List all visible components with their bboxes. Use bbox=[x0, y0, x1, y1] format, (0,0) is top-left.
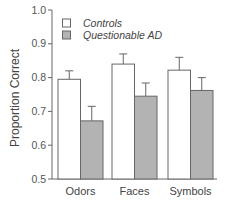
x-tick-label: Odors bbox=[66, 185, 96, 197]
legend: ControlsQuestionable AD bbox=[63, 17, 163, 41]
legend-label: Questionable AD bbox=[83, 29, 162, 41]
y-tick-label: 0.7 bbox=[31, 105, 46, 117]
y-tick-label: 0.9 bbox=[31, 37, 46, 49]
legend-label: Controls bbox=[83, 17, 123, 29]
bars bbox=[58, 54, 213, 179]
bar-faces-questionable-ad bbox=[135, 96, 158, 179]
y-tick-label: 0.6 bbox=[31, 139, 46, 151]
y-axis-title: Proportion Correct bbox=[8, 48, 22, 147]
y-axis: 0.50.60.70.80.91.0 bbox=[31, 4, 52, 185]
bar-faces-controls bbox=[112, 64, 135, 179]
y-tick-label: 0.8 bbox=[31, 71, 46, 83]
legend-swatch bbox=[63, 31, 71, 39]
bar-odors-controls bbox=[58, 79, 81, 179]
x-axis: OdorsFacesSymbols bbox=[52, 179, 217, 197]
y-tick-label: 0.5 bbox=[31, 173, 46, 185]
bar-symbols-questionable-ad bbox=[191, 90, 214, 179]
y-tick-label: 1.0 bbox=[31, 4, 46, 16]
legend-swatch bbox=[63, 19, 71, 27]
x-tick-label: Faces bbox=[120, 185, 150, 197]
bar-chart: 0.50.60.70.80.91.0 OdorsFacesSymbols Con… bbox=[0, 0, 229, 206]
bar-symbols-controls bbox=[168, 70, 191, 179]
x-tick-label: Symbols bbox=[169, 185, 212, 197]
bar-odors-questionable-ad bbox=[81, 121, 104, 179]
